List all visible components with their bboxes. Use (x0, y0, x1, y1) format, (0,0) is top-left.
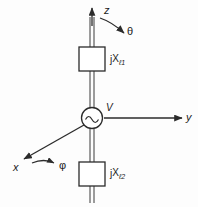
y-axis-label: y (186, 112, 192, 123)
lower-reactance-box (79, 162, 105, 186)
upper-reactance-box (79, 47, 105, 71)
source-voltage-label: V (106, 103, 113, 113)
lower-reactance-label: jXℓ2 (110, 168, 125, 180)
x-axis-label: x (13, 162, 19, 173)
z-axis-label: z (104, 5, 110, 16)
x-axis-line (24, 125, 84, 159)
lower-reactance-subscript: ℓ2 (119, 173, 125, 180)
theta-arrow (100, 18, 124, 33)
lower-reactance-variable: X (112, 167, 119, 178)
phi-arrow (32, 161, 54, 164)
upper-reactance-label: jXℓ1 (110, 54, 125, 66)
phi-angle-label: φ (59, 160, 66, 171)
upper-reactance-variable: X (112, 53, 119, 64)
diagram-canvas (0, 0, 198, 207)
ac-source-icon (82, 108, 103, 129)
theta-angle-label: θ (127, 26, 133, 37)
antenna-diagram-figure: z y x θ φ V jXℓ1 jXℓ2 (0, 0, 198, 207)
upper-reactance-subscript: ℓ1 (119, 59, 125, 66)
